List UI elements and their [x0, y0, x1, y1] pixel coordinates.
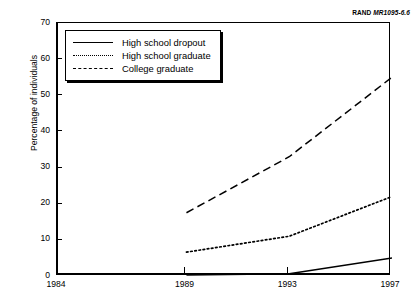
y-tick-mark-30 [56, 167, 62, 168]
y-tick-label-20: 20 [28, 198, 50, 206]
y-tick-mark-40 [56, 130, 62, 131]
chart-legend: High school dropoutHigh school graduateC… [65, 30, 221, 81]
legend-item-1: High school graduate [73, 49, 211, 62]
series-line-high-school-graduate [186, 196, 392, 252]
solid-line-swatch [73, 38, 113, 48]
y-axis-title: Percentage of individuals [29, 23, 39, 183]
y-tick-label-50: 50 [28, 90, 50, 98]
y-tick-mark-20 [56, 203, 62, 204]
source-credit: RAND MR1095-6.6 [352, 9, 410, 16]
x-tick-mark-1989 [184, 267, 185, 275]
figure-container: RAND MR1095-6.6 Percentage of individual… [0, 0, 418, 307]
y-tick-label-30: 30 [28, 162, 50, 170]
dashed-line-swatch [73, 64, 113, 74]
legend-item-0: High school dropout [73, 36, 211, 49]
series-line-high-school-dropout [186, 258, 392, 275]
y-tick-label-60: 60 [28, 54, 50, 62]
x-tick-label-1984: 1984 [36, 279, 76, 289]
y-tick-mark-60 [56, 58, 62, 59]
y-tick-mark-10 [56, 239, 62, 240]
legend-item-2: College graduate [73, 62, 211, 75]
x-tick-label-1997: 1997 [370, 279, 410, 289]
x-tick-label-1989: 1989 [164, 279, 204, 289]
dotted-line-swatch [73, 51, 113, 61]
y-tick-mark-70 [56, 22, 62, 23]
source-credit-code: MR1095-6.6 [373, 9, 410, 16]
y-tick-label-70: 70 [28, 18, 50, 26]
y-tick-label-10: 10 [28, 234, 50, 242]
legend-label-2: College graduate [122, 63, 193, 74]
y-tick-mark-50 [56, 94, 62, 95]
legend-label-1: High school graduate [122, 50, 211, 61]
y-tick-label-0: 0 [28, 271, 50, 279]
source-credit-prefix: RAND [352, 9, 373, 16]
x-tick-label-1993: 1993 [267, 279, 307, 289]
legend-label-0: High school dropout [122, 37, 205, 48]
x-tick-mark-1993 [287, 267, 288, 275]
y-tick-label-40: 40 [28, 126, 50, 134]
series-line-college-graduate [186, 77, 392, 213]
